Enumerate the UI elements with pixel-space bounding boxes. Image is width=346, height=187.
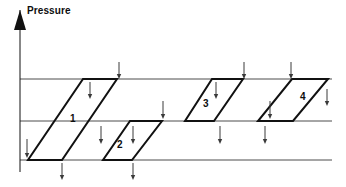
- arrow-upper-band-3: [214, 82, 218, 99]
- y-axis-arrow-icon: [14, 10, 26, 30]
- cell-label-2: 2: [117, 139, 123, 150]
- diagram-canvas: Pressure 1234: [0, 0, 346, 187]
- arrow-above-top-1: [117, 62, 121, 79]
- y-axis-label: Pressure: [27, 5, 71, 16]
- cell-label-3: 3: [203, 98, 209, 109]
- arrow-lower-band-5: [263, 126, 267, 144]
- arrow-above-top-3: [289, 62, 293, 79]
- cell-parallelogram-3: [185, 79, 243, 121]
- grid-lines: [20, 79, 332, 160]
- arrow-upper-band-2: [161, 101, 165, 119]
- arrow-lower-band-4: [218, 126, 222, 144]
- arrow-lower-band-3: [131, 126, 135, 144]
- arrow-below-bottom-2: [131, 163, 135, 180]
- arrow-lower-band-1: [25, 139, 29, 158]
- arrow-above-top-2: [242, 62, 246, 79]
- arrow-lower-band-2: [99, 126, 103, 144]
- cell-label-1: 1: [70, 113, 76, 124]
- pressure-band-diagram: [0, 0, 346, 187]
- arrow-upper-band-1: [88, 82, 92, 99]
- arrow-upper-band-5: [325, 89, 329, 106]
- arrow-below-bottom-1: [60, 163, 64, 180]
- pressure-axis: [14, 10, 26, 172]
- cell-label-4: 4: [300, 91, 306, 102]
